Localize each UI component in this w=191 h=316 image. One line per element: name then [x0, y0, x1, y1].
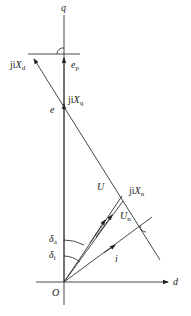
Un-line [64, 201, 123, 282]
right-angle-arc-top [57, 48, 64, 54]
ep-label: ep [71, 59, 79, 72]
e-label: e [50, 104, 55, 115]
jiXq-line [64, 107, 160, 260]
i-arrow [104, 245, 115, 253]
jiXd-label: jiXd [9, 59, 26, 72]
U-arrow [90, 220, 105, 243]
delta-a-label: δa [49, 233, 58, 246]
right-angle-arc-bottom [140, 226, 146, 232]
origin-label: O [52, 287, 59, 298]
q-axis-label: q [61, 2, 66, 13]
jiXd-vector [34, 59, 64, 107]
i-label: i [115, 253, 118, 264]
i-line [64, 217, 152, 282]
delta-i-label: δi [49, 249, 56, 262]
d-axis-label: d [173, 276, 179, 287]
jiXn-label: jiXn [128, 185, 145, 198]
jiXq-label: jiXq [67, 94, 84, 107]
phasor-diagram: q d O jiXd ep jiXq e U jiXn Un i δa δi [0, 0, 191, 316]
delta-a-arc [64, 240, 84, 245]
Un-arrow [96, 215, 112, 237]
U-label: U [97, 181, 105, 192]
